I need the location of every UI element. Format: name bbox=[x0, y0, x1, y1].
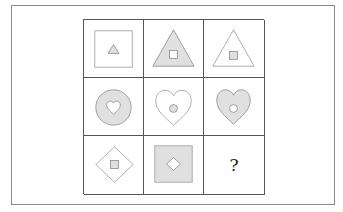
cell-r1-c3 bbox=[204, 20, 265, 78]
heart-with-circle-icon bbox=[204, 78, 264, 135]
cell-r1-c1 bbox=[84, 20, 144, 78]
cell-r2-c2 bbox=[144, 78, 204, 136]
cell-r2-c3 bbox=[204, 78, 265, 136]
cell-r3-c2 bbox=[144, 136, 204, 195]
puzzle-grid: ? bbox=[83, 19, 264, 194]
circle-with-heart-icon bbox=[84, 78, 143, 135]
cell-r3-c3-answer: ? bbox=[204, 136, 265, 195]
triangle-with-square-icon bbox=[204, 20, 264, 77]
heart-with-circle-icon bbox=[144, 78, 203, 135]
cell-r3-c1 bbox=[84, 136, 144, 195]
diamond-with-square-icon bbox=[84, 136, 143, 194]
cell-r1-c2 bbox=[144, 20, 204, 78]
square-with-diamond-icon bbox=[144, 136, 203, 194]
cell-r2-c1 bbox=[84, 78, 144, 136]
triangle-with-square-icon bbox=[144, 20, 203, 77]
question-mark: ? bbox=[204, 155, 264, 175]
square-with-triangle-icon bbox=[84, 20, 143, 77]
